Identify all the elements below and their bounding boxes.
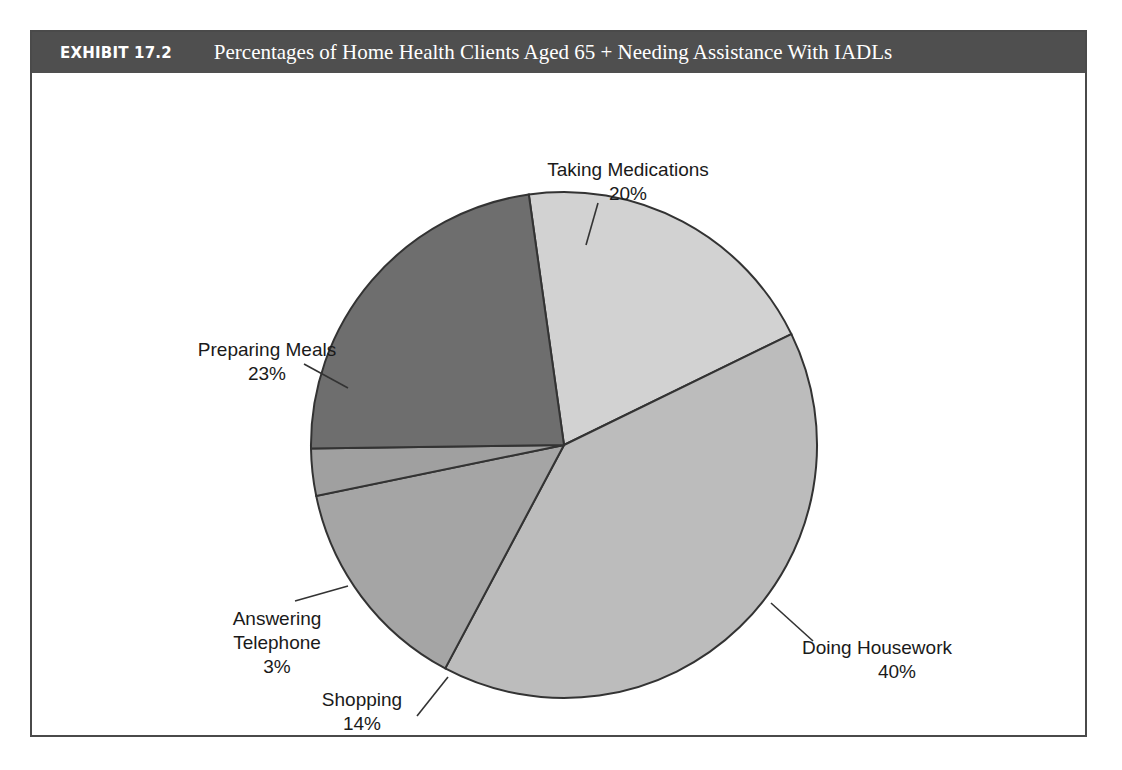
exhibit-number: EXHIBIT 17.2 — [60, 44, 172, 62]
pie-label-preparing-meals: Preparing Meals 23% — [142, 338, 392, 386]
pie-label-name: Shopping — [262, 688, 462, 712]
pie-label-name: Taking Medications — [498, 158, 758, 182]
pie-label-doing-housework: Doing Housework 40% — [802, 636, 1062, 684]
pie-label-shopping: Shopping 14% — [262, 688, 462, 736]
pie-label-value: 20% — [498, 182, 758, 206]
pie-label-taking-medications: Taking Medications 20% — [498, 158, 758, 206]
exhibit-title: Percentages of Home Health Clients Aged … — [214, 40, 892, 65]
pie-label-name: Doing Housework — [802, 636, 1062, 660]
pie-slice-preparing-meals — [311, 195, 564, 449]
pie-label-name-line1: Answering — [177, 607, 377, 631]
pie-label-value: 14% — [262, 712, 462, 736]
pie-label-value: 40% — [802, 660, 992, 684]
exhibit-header-bar: EXHIBIT 17.2 Percentages of Home Health … — [32, 32, 1085, 73]
pie-label-value: 23% — [142, 362, 392, 386]
pie-label-answering-telephone: Answering Telephone 3% — [177, 607, 377, 678]
pie-label-value: 3% — [177, 655, 377, 679]
pie-label-name: Preparing Meals — [142, 338, 392, 362]
pie-label-name-line2: Telephone — [177, 631, 377, 655]
exhibit-frame: EXHIBIT 17.2 Percentages of Home Health … — [30, 30, 1087, 737]
leader-line-answering-telephone — [295, 586, 348, 601]
pie-chart-area: Taking Medications 20% Doing Housework 4… — [32, 73, 1085, 737]
